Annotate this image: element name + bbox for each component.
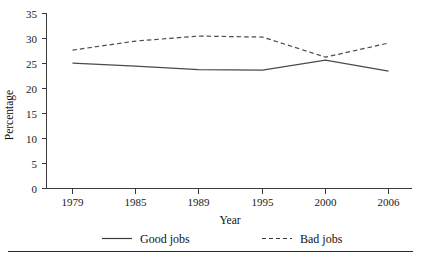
x-axis-ticks (73, 189, 389, 194)
x-tick-label: 1989 (188, 196, 211, 208)
y-axis-ticks (42, 14, 47, 189)
x-tick-label: 2006 (378, 196, 401, 208)
y-tick-label: 25 (26, 58, 38, 70)
legend-label-good-jobs: Good jobs (140, 232, 190, 246)
x-tick-label: 1979 (62, 196, 85, 208)
series-line-good-jobs (73, 60, 389, 71)
y-tick-label: 35 (26, 8, 38, 20)
chart-figure: 35 30 25 20 15 10 5 0 1979 1985 1989 199… (0, 0, 421, 257)
x-tick-label: 2000 (315, 196, 338, 208)
y-tick-label: 0 (32, 183, 38, 195)
y-tick-label: 30 (26, 33, 38, 45)
y-tick-label: 15 (26, 108, 38, 120)
series-line-bad-jobs (73, 36, 389, 57)
y-tick-label: 20 (26, 83, 38, 95)
x-tick-label: 1995 (252, 196, 275, 208)
y-axis-title: Percentage (3, 90, 16, 140)
x-tick-label: 1985 (125, 196, 148, 208)
chart-legend: Good jobs Bad jobs (102, 232, 343, 246)
y-tick-label: 5 (32, 158, 38, 170)
x-axis-title: Year (219, 214, 240, 226)
line-chart: 35 30 25 20 15 10 5 0 1979 1985 1989 199… (0, 0, 421, 257)
y-axis-tick-labels: 35 30 25 20 15 10 5 0 (26, 8, 38, 195)
x-axis-tick-labels: 1979 1985 1989 1995 2000 2006 (62, 196, 401, 208)
y-tick-label: 10 (26, 133, 38, 145)
legend-label-bad-jobs: Bad jobs (300, 232, 343, 246)
